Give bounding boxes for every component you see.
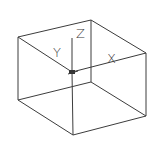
y-axis-label: Y (53, 45, 61, 60)
wireframe-diagram: Z Y X (0, 0, 161, 148)
edge-bottom-left-to-bottom-back (18, 82, 91, 100)
z-axis-label: Z (76, 26, 85, 41)
edge-front-vertical (72, 72, 73, 135)
edge-bottom-back-to-bottom-right (91, 82, 146, 116)
edge-bottom-left-to-bottom-front (18, 100, 73, 135)
edge-bottom-front-to-bottom-right (73, 116, 146, 135)
edge-top-left-to-top-front (18, 37, 72, 72)
x-axis-label: X (107, 51, 116, 66)
edge-top-back-to-top-right (91, 20, 146, 53)
